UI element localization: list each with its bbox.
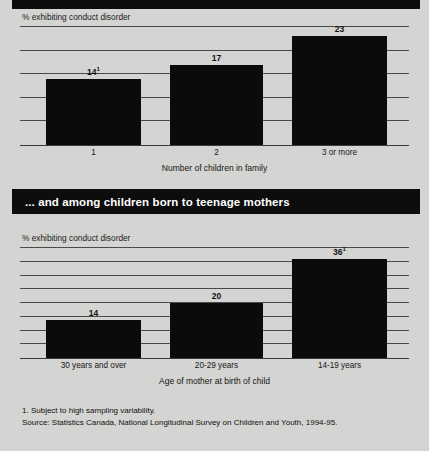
footnotes-block: 1. Subject to high sampling variability.…	[22, 405, 422, 428]
chart1-baseline	[20, 145, 409, 146]
chart2-category-labels: 30 years and over20-29 years14-19 years	[20, 361, 409, 375]
section-banner: ... and among children born to teenage m…	[12, 189, 420, 214]
bar: 23	[292, 36, 387, 145]
category-label: 1	[46, 148, 141, 157]
footnote-variability: 1. Subject to high sampling variability.	[22, 405, 422, 417]
chart1-x-axis-title: Number of children in family	[0, 163, 429, 173]
chart-conduct-disorder-by-family-size: % exhibiting conduct disorder 1411723 12…	[0, 12, 429, 182]
footnote-source: Source: Statistics Canada, National Long…	[22, 417, 422, 429]
category-label: 14-19 years	[292, 361, 387, 370]
chart-conduct-disorder-by-mother-age: % exhibiting conduct disorder 1420361 30…	[0, 233, 429, 391]
footnote-marker: 1	[343, 246, 346, 252]
bar: 17	[170, 65, 263, 145]
chart1-bars: 1411723	[20, 27, 409, 145]
bar: 14	[46, 320, 141, 359]
section-banner-heading: ... and among children born to teenage m…	[12, 196, 290, 208]
footnote-marker: 1	[97, 66, 100, 72]
category-label: 20-29 years	[170, 361, 263, 370]
bar-value-label: 141	[46, 67, 141, 77]
category-label: 2	[170, 148, 263, 157]
figure-page: % exhibiting conduct disorder 1411723 12…	[0, 0, 429, 451]
chart1-plot-area: 1411723	[20, 27, 409, 145]
category-label: 3 or more	[292, 148, 387, 157]
bar: 141	[46, 79, 141, 145]
chart2-bars: 1420361	[20, 248, 409, 358]
bar-value-label: 20	[170, 291, 263, 301]
bar: 20	[170, 303, 263, 358]
chart2-y-axis-title: % exhibiting conduct disorder	[22, 233, 130, 243]
chart2-plot-area: 1420361	[20, 248, 409, 358]
chart2-baseline	[20, 358, 409, 359]
category-label: 30 years and over	[46, 361, 141, 370]
bar-value-label: 361	[292, 247, 387, 257]
bar-value-label: 23	[292, 24, 387, 34]
top-banner-strip	[12, 0, 420, 9]
chart2-x-axis-title: Age of mother at birth of child	[0, 376, 429, 386]
chart1-category-labels: 123 or more	[20, 148, 409, 162]
chart1-y-axis-title: % exhibiting conduct disorder	[22, 12, 130, 22]
bar-value-label: 17	[170, 53, 263, 63]
bar-value-label: 14	[46, 308, 141, 318]
bar: 361	[292, 259, 387, 358]
